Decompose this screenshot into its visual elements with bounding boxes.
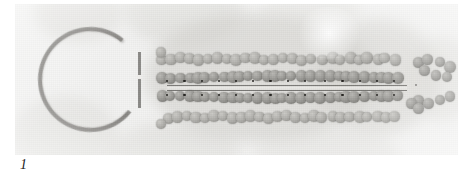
array-bead [359,91,370,102]
array-bead [362,112,372,122]
array-dot [201,94,203,96]
array-dot [183,80,185,82]
array-dot [269,80,271,82]
array-bead [317,55,327,65]
array-bead [413,103,424,114]
array-bead [361,52,372,63]
array-bead [392,72,404,84]
ring-inner-arc [36,25,146,135]
ring-gap-nick [137,75,142,79]
array-dot [218,80,220,82]
array-striation [167,90,407,91]
array-bead [419,65,430,76]
array-bead [445,91,456,102]
chevron-center-speck [415,84,417,86]
array-bead [335,55,345,65]
array-dot [341,80,343,82]
electron-micrograph-plate [15,4,458,155]
array-bead [156,47,167,58]
ring-structure [38,27,143,132]
array-striation [167,87,407,89]
array-dot [287,80,289,82]
figure-number-label: 1 [20,158,28,172]
array-bead [306,54,317,65]
figure-root: 1 [0,0,473,179]
array-bead [156,119,166,129]
array-dot [183,94,185,96]
array-bead [379,53,390,64]
array-dot [359,80,361,82]
array-bead [442,72,452,82]
array-dot [359,94,361,96]
array-dot [304,80,306,82]
ring-gap-bar [138,52,141,108]
array-bead [423,98,434,109]
array-bead [165,73,176,84]
array-striation [167,85,407,86]
array-bead [390,54,402,66]
array-dot [269,94,271,96]
array-bead [435,95,445,105]
array-bead [431,70,441,80]
array-bead [422,54,434,66]
array-bead [344,112,354,122]
array-dot [376,80,378,82]
array-bead [389,111,400,122]
array-bead [316,112,327,123]
array-dot [201,80,203,82]
array-dot [287,94,289,96]
array-dot [341,94,343,96]
